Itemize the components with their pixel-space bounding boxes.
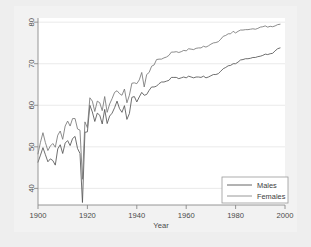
x-tick-label-1920: 1920: [79, 211, 96, 220]
x-axis-title: Year: [153, 221, 169, 230]
y-tick-group: 4050607080: [27, 18, 38, 193]
chart-canvas: 4050607080 190019201940196019802000 Year…: [0, 0, 311, 247]
x-tick-label-1900: 1900: [30, 211, 47, 220]
y-tick-label-50: 50: [27, 143, 36, 151]
y-tick-label-80: 80: [27, 18, 36, 26]
y-tick-label-40: 40: [27, 184, 36, 192]
line-chart-svg: 4050607080 190019201940196019802000 Year…: [0, 0, 311, 247]
x-tick-label-1960: 1960: [178, 211, 195, 220]
x-tick-label-2000: 2000: [277, 211, 294, 220]
x-tick-group: 190019201940196019802000: [30, 205, 294, 220]
y-tick-label-70: 70: [27, 59, 36, 67]
legend-label-males: Males: [257, 181, 277, 190]
x-tick-label-1980: 1980: [227, 211, 244, 220]
chart-legend[interactable]: Males Females: [222, 177, 288, 203]
legend-label-females: Females: [257, 192, 286, 201]
y-tick-label-60: 60: [27, 101, 36, 109]
chart-screenshot: 4050607080 190019201940196019802000 Year…: [0, 0, 311, 247]
x-tick-label-1940: 1940: [128, 211, 145, 220]
